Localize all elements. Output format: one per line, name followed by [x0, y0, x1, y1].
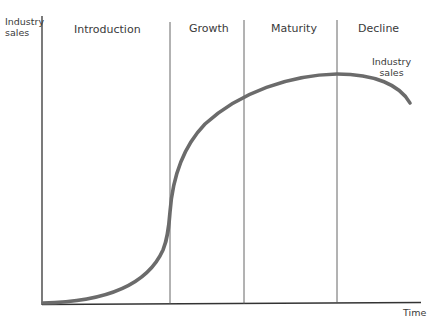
stage-maturity: Maturity: [271, 22, 317, 35]
stage-growth: Growth: [189, 22, 229, 35]
x-axis-label: Time: [403, 307, 426, 318]
life-cycle-diagram: [0, 0, 433, 320]
y-axis-label: Industry sales: [5, 16, 44, 38]
stage-decline: Decline: [358, 22, 399, 35]
y-axis-label-line2: sales: [5, 27, 44, 38]
stage-introduction: Introduction: [74, 23, 141, 36]
curve-label: Industry sales: [372, 56, 411, 78]
y-axis-label-line1: Industry: [5, 16, 44, 27]
curve-label-line2: sales: [372, 67, 411, 78]
x-axis: [42, 303, 421, 305]
industry-sales-curve: [43, 74, 410, 303]
curve-label-line1: Industry: [372, 56, 411, 67]
